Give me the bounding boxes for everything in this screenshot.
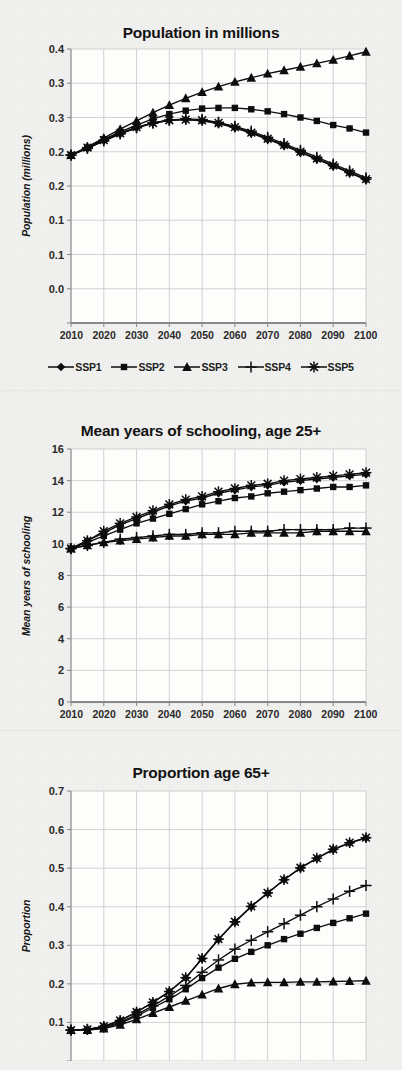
y-axis-title: Proportion [20, 900, 32, 953]
y-axis-tick-label: 0.3 [49, 112, 64, 123]
square-icon [111, 360, 137, 374]
chart-title-proportion: Proportion age 65+ [0, 764, 402, 781]
diamond-icon [48, 360, 74, 374]
legend-item-ssp2[interactable]: SSP2 [111, 360, 164, 374]
legend-item-label: SSP4 [265, 361, 291, 373]
y-axis-tick-label: 0.4 [49, 901, 64, 912]
y-axis-tick-label: 0.6 [49, 824, 64, 835]
x-axis-tick-label: 2020 [88, 708, 121, 720]
asterisk-icon [301, 360, 327, 374]
y-axis-tick-label: 16 [52, 444, 64, 455]
x-axis-tick-label: 2070 [251, 329, 284, 341]
plot-area-proportion: 0.70.60.50.40.30.20.1Proportion [0, 781, 402, 1061]
x-axis-tick-labels: 2010202020302040205020602070208020902100 [55, 708, 382, 720]
x-axis-tick-label: 2010 [55, 329, 88, 341]
y-axis-tick-label: 12 [52, 507, 64, 518]
y-axis-tick-label: 6 [58, 602, 64, 613]
x-axis-tick-label: 2100 [349, 329, 382, 341]
legend-item-ssp1[interactable]: SSP1 [48, 360, 101, 374]
x-axis-tick-label: 2040 [153, 329, 186, 341]
x-axis-tick-label: 2030 [120, 329, 153, 341]
x-axis-tick-label: 2010 [55, 708, 88, 720]
x-axis-tick-label: 2020 [88, 329, 121, 341]
y-axis-tick-label: 0.4 [49, 44, 64, 55]
x-axis-tick-label: 2080 [284, 708, 317, 720]
plus-icon [238, 360, 264, 374]
y-axis-tick-label: 4 [58, 633, 64, 644]
triangle-icon [174, 360, 200, 374]
y-axis-tick-label: 0.2 [49, 146, 64, 157]
x-axis-tick-label: 2060 [219, 708, 252, 720]
legend-item-ssp4[interactable]: SSP4 [238, 360, 291, 374]
y-axis-tick-label: 0 [58, 697, 64, 708]
y-axis-tick-label: 0.2 [49, 978, 64, 989]
chart-title-population: Population in millions [0, 24, 402, 41]
legend-item-label: SSP3 [201, 361, 227, 373]
legend-item-label: SSP1 [75, 361, 101, 373]
plot-area-schooling: 1614121086420Mean years of schooling2010… [0, 439, 402, 724]
chart-mean-years-schooling: Mean years of schooling, age 25+ 1614121… [0, 394, 402, 724]
y-axis-tick-label: 2 [58, 665, 64, 676]
legend-item-label: SSP5 [328, 361, 354, 373]
x-axis-tick-label: 2040 [153, 708, 186, 720]
y-axis-tick-label: 0.3 [49, 940, 64, 951]
legend-item-label: SSP2 [138, 361, 164, 373]
x-axis-tick-label: 2090 [317, 329, 350, 341]
y-axis-tick-label: 0.1 [49, 215, 64, 226]
axis-lines [67, 791, 71, 1061]
chart-title-schooling: Mean years of schooling, age 25+ [0, 422, 402, 439]
x-axis-tick-label: 2100 [349, 708, 382, 720]
x-axis-tick-label: 2090 [317, 708, 350, 720]
chart-population: Population in millions 0.40.30.30.20.20.… [0, 0, 402, 390]
x-axis-tick-labels: 2010202020302040205020602070208020902100 [55, 329, 382, 341]
x-axis-tick-label: 2060 [219, 329, 252, 341]
x-axis-tick-label: 2080 [284, 329, 317, 341]
figure-divider-2 [0, 730, 402, 731]
x-axis-tick-label: 2050 [186, 329, 219, 341]
figure-divider-1 [0, 390, 402, 391]
y-axis-title: Mean years of schooling [20, 515, 32, 635]
x-axis-tick-label: 2070 [251, 708, 284, 720]
plot-area-population: 0.40.30.30.20.20.10.10.0Population (mill… [0, 41, 402, 341]
y-axis-tick-label: 0.1 [49, 249, 64, 260]
y-axis-tick-label: 10 [52, 538, 64, 549]
y-axis-title: Population (millions) [20, 135, 32, 237]
y-axis-tick-label: 0.3 [49, 78, 64, 89]
x-axis-tick-label: 2030 [120, 708, 153, 720]
chart-proportion-age-65: Proportion age 65+ 0.70.60.50.40.30.20.1… [0, 742, 402, 1070]
ssp-scenario-legend: SSP1SSP2SSP3SSP4SSP5 [0, 360, 402, 374]
y-axis-tick-label: 0.2 [49, 181, 64, 192]
y-axis-tick-label: 0.1 [49, 1017, 64, 1028]
y-axis-tick-label: 0.7 [49, 786, 64, 797]
y-axis-tick-label: 8 [58, 570, 64, 581]
y-axis-tick-label: 0.5 [49, 863, 64, 874]
y-axis-tick-label: 14 [52, 475, 64, 486]
x-axis-tick-label: 2050 [186, 708, 219, 720]
legend-item-ssp5[interactable]: SSP5 [301, 360, 354, 374]
legend-item-ssp3[interactable]: SSP3 [174, 360, 227, 374]
y-axis-tick-label: 0.0 [49, 283, 64, 294]
